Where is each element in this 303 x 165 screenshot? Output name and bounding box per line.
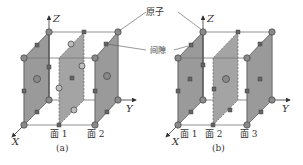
crystal-lattice-figure: Z Y X 面 1 面 2 (a) — [0, 0, 303, 165]
plane-label-1: 面 1 — [180, 129, 198, 139]
panel-a: Z Y X 面 1 面 2 (a) — [11, 13, 136, 153]
x-axis-label: X — [171, 136, 180, 147]
plane-label-1: 面 1 — [50, 129, 68, 139]
z-axis-label: Z — [52, 13, 61, 24]
z-axis-label: Z — [206, 13, 215, 24]
x-axis-label: X — [11, 136, 20, 147]
interstice-label: 间隙 — [150, 45, 166, 55]
atom-label: 原子 — [146, 7, 164, 17]
caption-a: (a) — [56, 143, 68, 153]
plane-label-2: 面 2 — [87, 129, 105, 139]
caption-b: (b) — [212, 143, 225, 153]
plane-label-3: 面 3 — [240, 129, 258, 139]
y-axis-label: Y — [282, 103, 290, 114]
panel-b: Z Y X 面 1 面 2 面 3 (b) — [166, 13, 290, 153]
plane-label-2: 面 2 — [205, 129, 223, 139]
y-axis-label: Y — [126, 103, 134, 114]
